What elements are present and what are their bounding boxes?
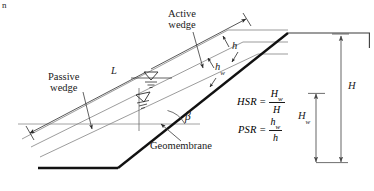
equation-psr-denominator-base: h — [273, 132, 278, 143]
geomembrane-label: Geomembrane — [150, 140, 212, 151]
equation-psr: PSR = hw h — [238, 116, 282, 143]
passive-wedge-label-line2: wedge — [50, 82, 77, 93]
equation-psr-numerator-sub: w — [276, 123, 281, 131]
crest-top-surface — [288, 33, 370, 48]
equation-hsr: HSR = Hw H — [237, 88, 285, 115]
equation-hsr-numerator-base: H — [271, 88, 278, 99]
thickness-label-hw: hw — [215, 61, 225, 75]
active-wedge-label: Active wedge — [168, 8, 196, 30]
height-Hw-dimension — [308, 93, 325, 162]
equation-psr-denominator: h — [269, 132, 283, 143]
geomembrane-slope-figure: n — [0, 0, 374, 191]
passive-wedge-label-line1: Passive — [48, 71, 80, 82]
equation-hsr-operator: = — [257, 96, 269, 107]
height-label-H: H — [348, 80, 356, 91]
equation-hsr-numerator: Hw — [269, 88, 285, 102]
active-wedge-label-line2: wedge — [168, 19, 195, 30]
passive-wedge-leader — [83, 92, 92, 129]
active-wedge-leader — [193, 32, 203, 68]
height-label-Hw-base: H — [298, 110, 306, 121]
height-label-Hw: Hw — [298, 110, 310, 124]
passive-wedge-label: Passive wedge — [48, 71, 80, 93]
height-label-Hw-sub: w — [306, 118, 311, 126]
active-wedge-label-line1: Active — [168, 8, 196, 19]
equation-psr-numerator: hw — [269, 116, 283, 130]
equation-psr-lhs: PSR — [238, 124, 257, 135]
equation-psr-fraction: hw h — [269, 116, 283, 143]
slope-angle-label-beta: β — [185, 110, 191, 122]
thickness-label-h: h — [232, 40, 237, 51]
equation-hsr-numerator-sub: w — [278, 95, 283, 103]
thickness-label-hw-sub: w — [220, 69, 225, 77]
equation-psr-numerator-base: h — [271, 116, 276, 127]
equation-psr-operator: = — [257, 124, 269, 135]
equation-hsr-denominator-base: H — [273, 104, 280, 115]
height-H-dimension — [316, 36, 348, 163]
slope-length-label-L: L — [111, 65, 117, 76]
equation-hsr-denominator: H — [269, 104, 285, 115]
equation-hsr-fraction: Hw H — [269, 88, 285, 115]
equation-hsr-lhs: HSR — [237, 96, 257, 107]
